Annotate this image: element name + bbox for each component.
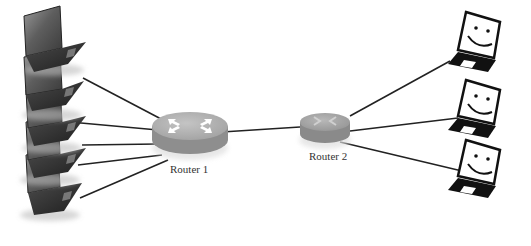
link-left-4 [78,155,162,165]
link-router1-router2 [222,127,300,132]
router-2-label: Router 2 [309,150,347,162]
link-left-5 [80,160,168,198]
link-left-1 [83,78,163,120]
router-1-label: Router 1 [170,163,208,175]
links-right [340,61,462,171]
router-1-icon [152,112,228,160]
router-2-icon [299,113,351,149]
link-right-3 [340,142,462,171]
link-right-2 [350,118,458,131]
link-left-2 [70,122,158,130]
diagram-canvas [0,0,531,246]
left-laptops [20,6,86,221]
link-right-1 [350,61,450,116]
laptop-left-1 [24,6,86,76]
laptop-right-2 [448,80,500,138]
link-left-3 [82,144,158,145]
network-diagram: Router 1 Router 2 [0,0,531,246]
laptop-right-1 [448,12,500,72]
